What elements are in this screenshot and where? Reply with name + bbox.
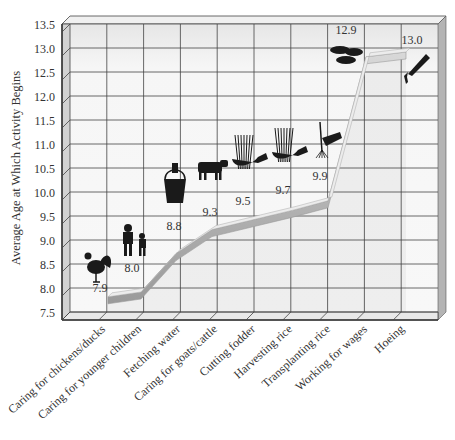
y-tick-label: 11.0 bbox=[34, 138, 55, 152]
y-tick-label: 9.5 bbox=[40, 210, 55, 224]
x-axis-categories: Caring for chickens/ducksCaring for youn… bbox=[5, 322, 407, 422]
value-label: 7.9 bbox=[93, 281, 108, 295]
y-tick-label: 13.5 bbox=[34, 18, 55, 32]
y-tick-label: 10.5 bbox=[34, 162, 55, 176]
y-tick-label: 12.0 bbox=[34, 90, 55, 104]
y-tick-label: 7.5 bbox=[40, 306, 55, 320]
y-tick-label: 9.0 bbox=[40, 234, 55, 248]
y-tick-label: 12.5 bbox=[34, 66, 55, 80]
value-label: 8.8 bbox=[167, 219, 182, 233]
frame-right-side bbox=[438, 16, 446, 320]
y-axis-ticks: 7.58.08.59.09.510.010.511.011.512.012.51… bbox=[34, 18, 55, 320]
y-tick-label: 8.5 bbox=[40, 258, 55, 272]
frame-top-face bbox=[62, 16, 446, 24]
y-tick-label: 11.5 bbox=[34, 114, 55, 128]
value-label: 13.0 bbox=[402, 33, 423, 47]
value-label: 12.9 bbox=[336, 23, 357, 37]
y-tick-label: 10.0 bbox=[34, 186, 55, 200]
y-tick-label: 13.0 bbox=[34, 42, 55, 56]
value-label: 9.3 bbox=[203, 205, 218, 219]
value-label: 8.0 bbox=[125, 261, 140, 275]
chart: 7.58.08.59.09.510.010.511.011.512.012.51… bbox=[0, 0, 455, 440]
y-axis-label: Average Age at Which Activity Begins bbox=[9, 71, 23, 265]
x-category-label: Hoeing bbox=[371, 322, 407, 356]
y-tick-label: 8.0 bbox=[40, 282, 55, 296]
value-label: 9.7 bbox=[276, 183, 291, 197]
value-label: 9.9 bbox=[313, 169, 328, 183]
value-label: 9.5 bbox=[236, 194, 251, 208]
